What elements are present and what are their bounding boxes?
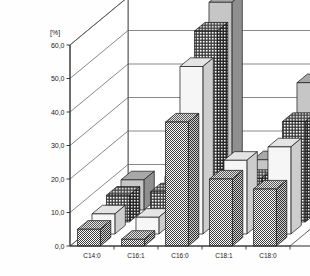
x-axis-category-label: C16:0 [171, 252, 189, 259]
bar-chart-3d: 0,010,020,030,040,050,060,0[%]C14:0C16:1… [0, 0, 310, 276]
x-axis-category-label: C16:1 [127, 252, 145, 259]
bar-C18-1-series-IV [209, 170, 242, 246]
y-axis-tick-label: 0,0 [55, 243, 65, 250]
bar-front-face [209, 179, 232, 246]
x-axis-category-label: C14:0 [83, 252, 101, 259]
x-axis-category-label: C18:0 [259, 252, 277, 259]
bar-C18-0-series-IV [253, 180, 286, 246]
bar-side-face [305, 113, 310, 222]
y-axis-tick-label: 10,0 [51, 209, 65, 216]
y-axis-unit-label: [%] [50, 29, 60, 37]
bar-side-face [188, 113, 198, 246]
x-axis-category-label: C18:1 [215, 252, 233, 259]
bar-C16-0-series-IV [165, 113, 198, 246]
bar-side-face [232, 170, 242, 246]
bar-front-face [253, 189, 276, 246]
bar-front-face [165, 122, 188, 246]
y-axis-tick-label: 50,0 [51, 75, 65, 82]
y-axis-tick-label: 30,0 [51, 142, 65, 149]
bar-side-face [276, 180, 286, 246]
plot-area [70, 0, 310, 246]
bar-front-face [121, 239, 144, 246]
y-axis-tick-label: 40,0 [51, 109, 65, 116]
y-axis-tick-label: 20,0 [51, 176, 65, 183]
chart-container: 0,010,020,030,040,050,060,0[%]C14:0C16:1… [0, 0, 310, 276]
bar-side-face [291, 138, 301, 234]
bar-front-face [77, 229, 100, 246]
y-axis-tick-label: 60,0 [51, 42, 65, 49]
